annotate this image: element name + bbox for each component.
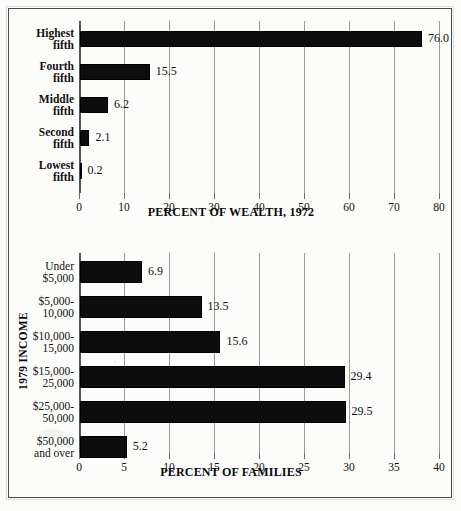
x-axis-tick	[259, 193, 260, 199]
bar-value-label: 29.5	[352, 404, 373, 419]
category-label-line: 25,000	[0, 377, 74, 389]
bar-value-label: 15.5	[156, 64, 177, 79]
bar	[80, 163, 82, 179]
bar-value-label: 13.5	[208, 299, 229, 314]
x-axis-tick	[169, 193, 170, 199]
category-label-line: Fourth	[0, 60, 74, 72]
x-axis-tick	[259, 453, 260, 459]
bar	[80, 296, 202, 318]
gridline	[394, 253, 395, 453]
bar	[80, 401, 346, 423]
bar	[80, 31, 422, 47]
x-axis-tick	[79, 193, 80, 199]
y-axis-title: 1979 INCOME	[17, 301, 29, 401]
gridline	[169, 253, 170, 453]
gridline	[439, 21, 440, 193]
category-label-line: Middle	[0, 93, 74, 105]
category-label-line: $5,000	[0, 272, 74, 284]
gridline	[304, 253, 305, 453]
bar-value-label: 2.1	[95, 130, 110, 145]
category-label: Lowestfifth	[0, 159, 74, 184]
bar-value-label: 29.4	[351, 369, 372, 384]
category-label-line: Under	[0, 260, 74, 272]
category-label: Under$5,000	[0, 260, 74, 285]
category-label-line: $5,000-	[0, 295, 74, 307]
x-axis-tick	[304, 453, 305, 459]
category-label-line: Second	[0, 126, 74, 138]
category-label-line: $15,000-	[0, 365, 74, 377]
gridline	[349, 253, 350, 453]
bar	[80, 366, 345, 388]
bar-value-label: 76.0	[428, 31, 449, 46]
x-axis-tick	[304, 193, 305, 199]
figure-page: 0102030405060708076.0Highestfifth15.5Fou…	[0, 0, 461, 511]
bar-value-label: 6.2	[114, 97, 129, 112]
bar	[80, 64, 150, 80]
category-label-line: 50,000	[0, 412, 74, 424]
category-label-line: Lowest	[0, 159, 74, 171]
x-axis-title: PERCENT OF WEALTH, 1972	[9, 205, 453, 220]
x-axis-tick	[439, 453, 440, 459]
category-label-line: fifth	[0, 105, 74, 117]
bar	[80, 436, 127, 458]
scan-speck	[114, 361, 116, 363]
x-axis-tick	[394, 453, 395, 459]
category-label-line: Highest	[0, 27, 74, 39]
bar	[80, 97, 108, 113]
x-axis-tick	[394, 193, 395, 199]
category-label: Middlefifth	[0, 93, 74, 118]
x-axis-tick	[169, 453, 170, 459]
bar-value-label: 6.9	[148, 264, 163, 279]
category-label: $10,000-15,000	[0, 330, 74, 355]
category-label-line: $50,000	[0, 435, 74, 447]
bar-value-label: 15.6	[226, 334, 247, 349]
wealth-bar-chart: 0102030405060708076.0Highestfifth15.5Fou…	[9, 9, 453, 219]
category-label: Fourthfifth	[0, 60, 74, 85]
category-label: $5,000-10,000	[0, 295, 74, 320]
families-bar-chart: 05101520253035406.9Under$5,00013.5$5,000…	[9, 241, 453, 497]
x-axis-tick	[214, 453, 215, 459]
category-label-line: fifth	[0, 138, 74, 150]
category-label: $15,000-25,000	[0, 365, 74, 390]
x-axis-tick	[349, 193, 350, 199]
bar	[80, 331, 220, 353]
bar	[80, 130, 89, 146]
x-axis-tick	[124, 193, 125, 199]
category-label-line: $10,000-	[0, 330, 74, 342]
category-label-line: $25,000-	[0, 400, 74, 412]
category-label: $25,000-50,000	[0, 400, 74, 425]
gridline	[439, 253, 440, 453]
category-label-line: fifth	[0, 39, 74, 51]
x-axis-tick	[214, 193, 215, 199]
x-axis-tick	[349, 453, 350, 459]
figure-frame: 0102030405060708076.0Highestfifth15.5Fou…	[8, 8, 452, 498]
bar-value-label: 5.2	[133, 439, 148, 454]
x-axis-title: PERCENT OF FAMILIES	[9, 465, 453, 480]
y-axis-line	[79, 253, 81, 453]
x-axis-tick	[439, 193, 440, 199]
gridline	[124, 253, 125, 453]
bar	[80, 261, 142, 283]
category-label: $50,000and over	[0, 435, 74, 460]
category-label-line: fifth	[0, 171, 74, 183]
category-label-line: fifth	[0, 72, 74, 84]
bar-value-label: 0.2	[88, 163, 103, 178]
gridline	[259, 253, 260, 453]
gridline	[214, 253, 215, 453]
category-label-line: and over	[0, 447, 74, 459]
category-label-line: 15,000	[0, 342, 74, 354]
category-label-line: 10,000	[0, 307, 74, 319]
category-label: Secondfifth	[0, 126, 74, 151]
category-label: Highestfifth	[0, 27, 74, 52]
